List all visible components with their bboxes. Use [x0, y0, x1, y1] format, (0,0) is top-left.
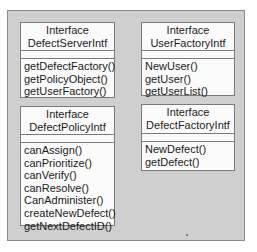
methods-compartment: NewUser() getUser() getUserList()	[142, 58, 234, 98]
class-header: Interface UserFactoryIntf	[142, 23, 234, 50]
method: getDefect()	[145, 156, 234, 169]
method: getUserList()	[145, 85, 234, 98]
methods-compartment: getDefectFactory() getPolicyObject() get…	[21, 58, 114, 98]
attributes-compartment	[21, 50, 114, 58]
method: NewUser()	[145, 60, 234, 73]
class-box-user-factory-intf: Interface UserFactoryIntf NewUser() getU…	[141, 22, 235, 96]
stereotype-label: Interface	[142, 106, 234, 119]
class-box-defect-policy-intf: Interface DefectPolicyIntf canAssign() c…	[20, 106, 115, 226]
method: NewDefect()	[145, 143, 234, 156]
method: createNewDefect()	[24, 207, 114, 220]
class-name: DefectServerIntf	[21, 37, 114, 50]
method: getPolicyObject()	[24, 73, 114, 86]
method: canPrioritize()	[24, 157, 114, 170]
methods-compartment: canAssign() canPrioritize() canVerify() …	[21, 142, 114, 232]
class-name: DefectFactoryIntf	[142, 119, 234, 132]
class-name: DefectPolicyIntf	[21, 121, 114, 134]
stereotype-label: Interface	[21, 108, 114, 121]
method: canAssign()	[24, 144, 114, 157]
method: getUserFactory()	[24, 85, 114, 98]
methods-compartment: NewDefect() getDefect()	[142, 141, 234, 168]
stereotype-label: Interface	[142, 24, 234, 37]
stereotype-label: Interface	[21, 24, 114, 37]
attributes-compartment	[21, 134, 114, 142]
class-header: Interface DefectPolicyIntf	[21, 107, 114, 134]
class-header: Interface DefectFactoryIntf	[142, 105, 234, 133]
method: getDefectFactory()	[24, 60, 114, 73]
method: getNextDefectID()	[24, 220, 114, 233]
speck	[186, 234, 188, 236]
class-name: UserFactoryIntf	[142, 37, 234, 50]
class-box-defect-server-intf: Interface DefectServerIntf getDefectFact…	[20, 22, 115, 98]
attributes-compartment	[142, 133, 234, 141]
attributes-compartment	[142, 50, 234, 58]
method: CanAdminister()	[24, 194, 114, 207]
method: getUser()	[145, 73, 234, 86]
method: canResolve()	[24, 182, 114, 195]
class-box-defect-factory-intf: Interface DefectFactoryIntf NewDefect() …	[141, 104, 235, 171]
method: canVerify()	[24, 169, 114, 182]
class-header: Interface DefectServerIntf	[21, 23, 114, 50]
